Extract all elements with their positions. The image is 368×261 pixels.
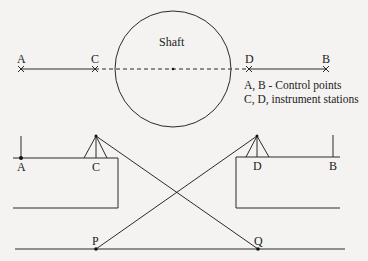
apex-d-dot [256,135,259,138]
label-d-top: D [245,52,254,66]
label-a-section: A [17,160,26,174]
label-c-top: C [91,52,99,66]
label-b-top: B [322,52,330,66]
label-q: Q [254,234,263,248]
label-p: P [92,234,99,248]
tripod-d-icon [246,136,269,157]
shaft-survey-diagram: Shaft A C D B A, B - Control points C, D… [0,0,368,261]
label-d-section: D [253,159,262,173]
apex-c-dot [95,135,98,138]
label-c-section: C [92,160,100,174]
shaft-label: Shaft [159,35,185,49]
tripod-c-icon [84,136,107,158]
legend-line-2: C, D, instrument stations [244,93,359,106]
legend-line-1: A, B - Control points [244,79,342,92]
diagram-canvas: Shaft A C D B A, B - Control points C, D… [0,0,368,261]
label-a-top: A [17,52,26,66]
label-b-section: B [329,159,337,173]
shaft-center-dot [172,68,175,71]
